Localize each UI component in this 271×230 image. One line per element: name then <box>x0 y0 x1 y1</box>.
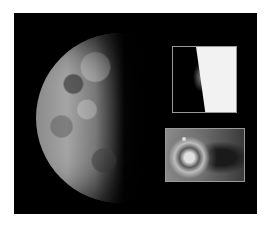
inset-volcanic-vent <box>165 128 245 182</box>
moon-limb <box>195 46 237 113</box>
bright-spot <box>182 137 186 141</box>
inset-limb-plume <box>172 46 237 113</box>
photo-frame <box>14 13 257 214</box>
night-side-shadow <box>127 13 257 214</box>
